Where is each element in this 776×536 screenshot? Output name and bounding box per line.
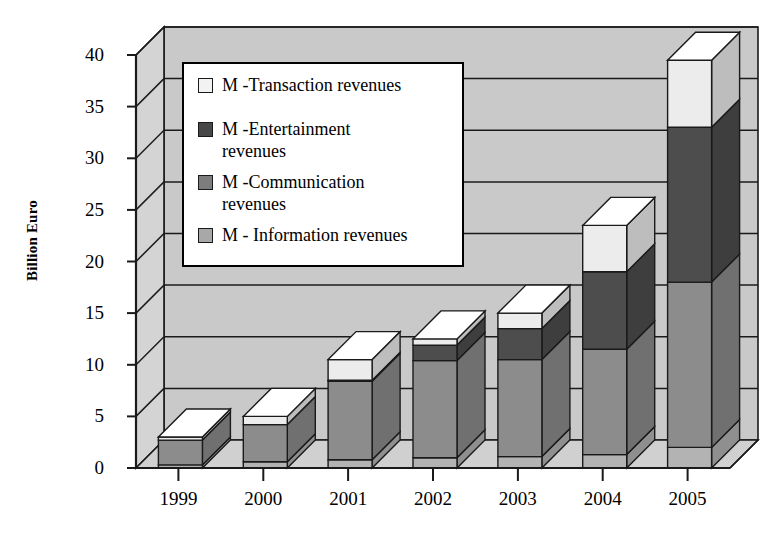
legend-item-label: M -Communication revenues bbox=[222, 171, 365, 215]
bar-front-face bbox=[583, 225, 627, 271]
bar-front-face bbox=[668, 282, 712, 447]
bar-front-face bbox=[583, 349, 627, 454]
bar-front-face bbox=[328, 360, 372, 381]
legend-item: M -Entertainment revenues bbox=[198, 118, 462, 162]
legend-item-label: M -Entertainment revenues bbox=[222, 118, 350, 162]
bar-front-face bbox=[498, 457, 542, 468]
legend-swatch-icon bbox=[198, 175, 213, 190]
x-axis-tick-label: 2005 bbox=[648, 489, 728, 509]
legend-item: M -Communication revenues bbox=[198, 171, 462, 215]
legend-spacer bbox=[198, 98, 462, 118]
x-axis-tick-label: 2001 bbox=[308, 489, 388, 509]
bar-front-face bbox=[328, 460, 372, 468]
bar-side-face bbox=[712, 99, 740, 282]
x-axis-tick-label: 2003 bbox=[478, 489, 558, 509]
legend-item: M -Transaction revenues bbox=[198, 74, 462, 96]
bar-front-face bbox=[498, 313, 542, 329]
bar-front-face bbox=[413, 345, 457, 361]
bar-front-face bbox=[583, 455, 627, 468]
x-axis-tick-label: 2002 bbox=[393, 489, 473, 509]
legend-swatch-icon bbox=[198, 78, 213, 93]
bar-front-face bbox=[243, 416, 287, 424]
bar-front-face bbox=[668, 127, 712, 282]
bar-front-face bbox=[668, 60, 712, 127]
legend-swatch-icon bbox=[198, 122, 213, 137]
legend-swatch-icon bbox=[198, 228, 213, 243]
legend-spacer bbox=[198, 217, 462, 224]
chart-legend: M -Transaction revenuesM -Entertainment … bbox=[182, 62, 464, 267]
bar-front-face bbox=[158, 440, 202, 465]
legend-item: M - Information revenues bbox=[198, 224, 462, 246]
x-axis-tick-label: 2004 bbox=[563, 489, 643, 509]
legend-spacer bbox=[198, 248, 462, 255]
x-axis-tick-labels: 1999200020012002200320042005 bbox=[0, 489, 776, 519]
bar-front-face bbox=[413, 458, 457, 468]
legend-spacer bbox=[198, 164, 462, 171]
bar-front-face bbox=[413, 361, 457, 458]
bar-front-face bbox=[243, 425, 287, 462]
bar-front-face bbox=[413, 339, 457, 345]
chart-container: Billion Euro 4035302520151050 1999200020… bbox=[0, 0, 776, 536]
bar-front-face bbox=[668, 447, 712, 468]
bar-front-face bbox=[498, 360, 542, 457]
x-axis-tick-label: 1999 bbox=[138, 489, 218, 509]
bar-front-face bbox=[583, 272, 627, 350]
x-axis-tick-label: 2000 bbox=[223, 489, 303, 509]
legend-item-label: M - Information revenues bbox=[222, 224, 407, 246]
bar-front-face bbox=[498, 329, 542, 360]
bar-front-face bbox=[328, 381, 372, 459]
legend-item-label: M -Transaction revenues bbox=[222, 74, 401, 96]
bar-side-face bbox=[712, 254, 740, 447]
